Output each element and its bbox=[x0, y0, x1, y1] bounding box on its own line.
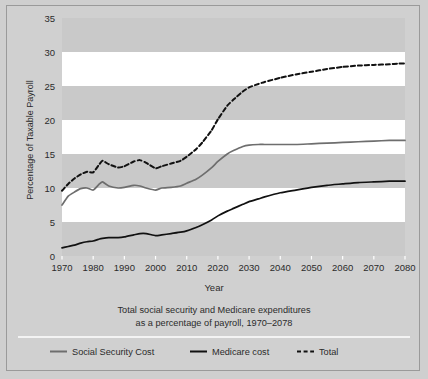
x-axis-title: Year bbox=[204, 282, 223, 293]
y-tick-label: 15 bbox=[44, 149, 55, 160]
x-tick-label: 1990 bbox=[114, 262, 135, 273]
legend-label-0: Social Security Cost bbox=[72, 347, 155, 357]
band-15 bbox=[62, 120, 405, 154]
x-axis-tick-labels: 1970198019902000201020202030204020502060… bbox=[51, 262, 415, 273]
y-axis-title: Percentage of Taxable Payroll bbox=[25, 80, 35, 199]
y-tick-label: 30 bbox=[44, 47, 55, 58]
x-tick-label: 1980 bbox=[83, 262, 104, 273]
band-0 bbox=[62, 222, 405, 256]
band-5 bbox=[62, 188, 405, 222]
x-tick-label: 2010 bbox=[176, 262, 197, 273]
x-tick-label: 2020 bbox=[207, 262, 228, 273]
legend: Social Security CostMedicare costTotal bbox=[50, 347, 338, 357]
figure-container: 05101520253035 1970198019902000201020202… bbox=[0, 0, 428, 379]
chart-canvas: 05101520253035 1970198019902000201020202… bbox=[0, 0, 428, 379]
x-tick-label: 2060 bbox=[332, 262, 353, 273]
legend-label-1: Medicare cost bbox=[212, 347, 270, 357]
band-30 bbox=[62, 18, 405, 52]
y-tick-label: 0 bbox=[50, 251, 55, 262]
band-25 bbox=[62, 52, 405, 86]
chart-svg: 05101520253035 1970198019902000201020202… bbox=[0, 0, 428, 379]
band-20 bbox=[62, 86, 405, 120]
y-tick-label: 20 bbox=[44, 115, 55, 126]
x-tick-label: 1970 bbox=[51, 262, 72, 273]
x-axis-tick-marks bbox=[62, 256, 405, 260]
y-axis-bands bbox=[62, 18, 405, 256]
x-tick-label: 2080 bbox=[394, 262, 415, 273]
x-tick-label: 2070 bbox=[363, 262, 384, 273]
caption-line-2: as a percentage of payroll, 1970–2078 bbox=[136, 318, 293, 328]
y-tick-label: 5 bbox=[50, 217, 55, 228]
y-tick-label: 10 bbox=[44, 183, 55, 194]
caption-line-1: Total social security and Medicare expen… bbox=[117, 305, 310, 315]
x-tick-label: 2030 bbox=[239, 262, 260, 273]
x-tick-label: 2040 bbox=[270, 262, 291, 273]
y-tick-label: 25 bbox=[44, 81, 55, 92]
x-tick-label: 2050 bbox=[301, 262, 322, 273]
y-axis-tick-labels: 05101520253035 bbox=[44, 13, 55, 262]
legend-label-2: Total bbox=[319, 347, 338, 357]
y-tick-label: 35 bbox=[44, 13, 55, 24]
x-tick-label: 2000 bbox=[145, 262, 166, 273]
